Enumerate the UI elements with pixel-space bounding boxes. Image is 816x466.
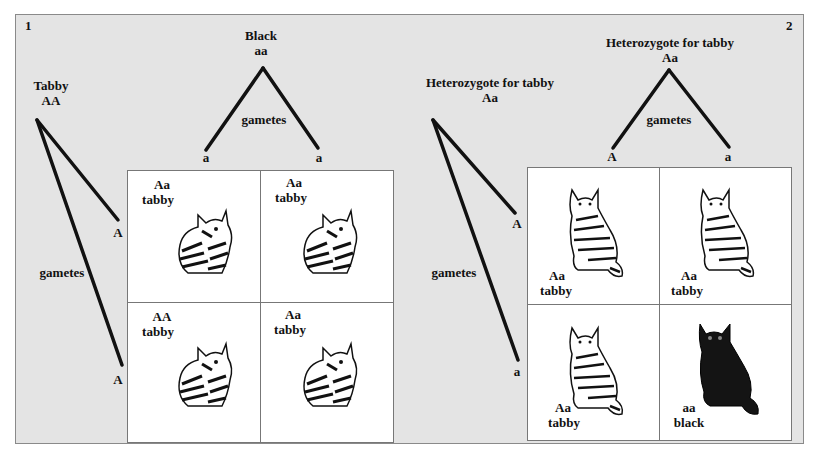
panel-2-left-gamete-2: a <box>509 364 525 379</box>
cell-genotype: Aa <box>273 307 313 322</box>
tabby-cat-icon <box>168 336 238 414</box>
cell-genotype: Aa <box>274 175 314 190</box>
panel-2-punnett-square: Aa tabby Aa tabby Aa tabby aa black <box>527 167 792 441</box>
panel-1-top-gametes-label: gametes <box>232 112 296 127</box>
panel-1-top-parent-genotype: aa <box>225 43 297 58</box>
tabby-cat-icon <box>293 336 363 414</box>
panel-2-top-parent-phenotype: Heterozygote for tabby <box>590 35 750 50</box>
tabby-cat-icon <box>689 186 759 281</box>
panel-2-top-gametes-label: gametes <box>637 112 701 127</box>
panel-1-top-gamete-2: a <box>311 150 327 165</box>
panel-2-top-gamete-1: A <box>604 149 620 164</box>
cell-genotype: Aa <box>142 177 182 192</box>
panel-1-left-gamete-1: A <box>110 225 126 240</box>
cell-phenotype: tabby <box>544 415 584 430</box>
cell-phenotype: tabby <box>270 322 310 337</box>
cell-phenotype: black <box>669 415 709 430</box>
cell-genotype: AA <box>142 309 182 324</box>
panel-1-left-gamete-2: A <box>110 372 126 387</box>
cell-phenotype: tabby <box>536 283 576 298</box>
cell-genotype: aa <box>674 400 704 415</box>
cell-genotype: Aa <box>542 268 572 283</box>
panel-1-number: 1 <box>25 18 32 34</box>
cell-phenotype: tabby <box>667 283 707 298</box>
panel-2-top-gamete-2: a <box>720 149 736 164</box>
tabby-cat-icon <box>558 186 628 281</box>
tabby-cat-icon <box>168 203 238 281</box>
cell-genotype: Aa <box>674 268 704 283</box>
panel-1-punnett-square: Aa tabby Aa tabby AA tabby Aa tabby <box>127 170 394 443</box>
tabby-cat-icon <box>293 203 363 281</box>
panel-1-top-parent-phenotype: Black <box>225 28 297 43</box>
panel-2-left-parent-phenotype: Heterozygote for tabby <box>410 75 570 90</box>
panel-2-left-gamete-1: A <box>509 216 525 231</box>
panel-1-left-parent-phenotype: Tabby <box>20 78 82 93</box>
panel-2-top-parent-genotype: Aa <box>590 50 750 65</box>
panel-1-left-gametes-label: gametes <box>30 265 94 280</box>
panel-2-left-parent-genotype: Aa <box>410 90 570 105</box>
cell-genotype: Aa <box>548 400 578 415</box>
panel-1-top-gamete-1: a <box>198 150 214 165</box>
panel-2-left-gametes-label: gametes <box>422 265 486 280</box>
panel-1-left-parent-genotype: AA <box>20 93 82 108</box>
panel-2-number: 2 <box>786 18 793 34</box>
